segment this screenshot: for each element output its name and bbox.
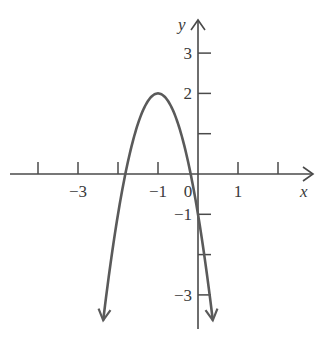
- axes: [10, 20, 313, 329]
- x-axis-label: x: [299, 182, 308, 201]
- y-tick-label: 2: [184, 84, 193, 103]
- x-tick-label: 0: [184, 182, 193, 201]
- y-tick-label: −3: [174, 286, 192, 305]
- x-tick-label: −1: [149, 182, 167, 201]
- y-tick-label: 3: [184, 44, 193, 63]
- curve-arrowheads: [99, 309, 218, 321]
- parabola-graph: −3−10132−1−3 x y: [0, 0, 326, 340]
- x-tick-label: −3: [69, 182, 87, 201]
- y-axis-label: y: [176, 15, 186, 34]
- parabola-curve: [103, 93, 213, 320]
- y-tick-label: −1: [174, 205, 192, 224]
- x-tick-label: 1: [234, 182, 243, 201]
